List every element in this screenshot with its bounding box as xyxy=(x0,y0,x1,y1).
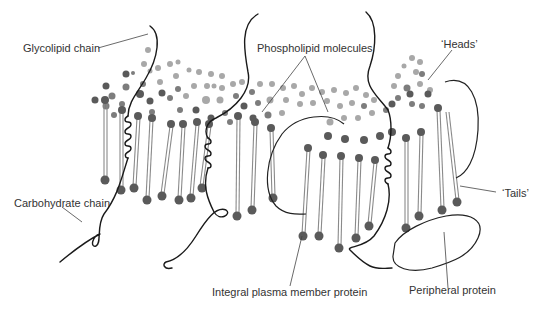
label-phospholipid-molecules: Phospholipid molecules xyxy=(257,42,373,55)
outer-leaflet-heads xyxy=(92,47,434,126)
coil-middle-right xyxy=(385,148,391,184)
peripheral-protein-outline xyxy=(393,215,480,270)
label-glycolipid-chain: Glycolipid chain xyxy=(23,42,100,55)
carbohydrate-chain-left xyxy=(60,158,128,262)
label-tails: ‘Tails’ xyxy=(502,187,529,200)
chain-middle-right xyxy=(366,12,391,148)
label-integral-protein: Integral plasma member protein xyxy=(212,286,367,299)
right-protein-outline xyxy=(445,81,478,178)
label-carbohydrate-chain: Carbohydrate chain xyxy=(14,197,110,210)
chain-middle-left-lower xyxy=(164,168,228,268)
label-peripheral-protein: Peripheral protein xyxy=(409,284,496,297)
label-heads: ‘Heads’ xyxy=(441,38,478,51)
glycolipid-coil-left xyxy=(125,116,131,158)
phospholipid-heads xyxy=(101,96,462,253)
